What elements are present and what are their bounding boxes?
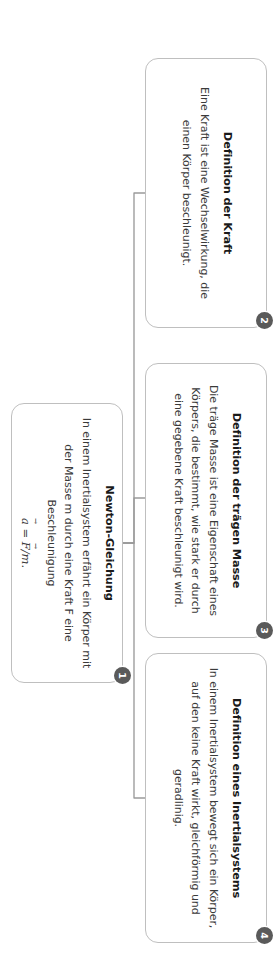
formula-operator: =: [19, 528, 33, 538]
formula-terminator: .: [19, 564, 33, 568]
formula-acceleration: a: [18, 518, 34, 525]
node-body: In einem Inertialsystem erfährt ein Körp…: [42, 417, 95, 669]
node-title: Definition der trägen Masse: [229, 413, 243, 589]
formula-force: F: [18, 542, 34, 550]
badge-2: 2: [256, 312, 273, 329]
node-definition-inertialsystem[interactable]: Definition eines InertialsystemsIn einem…: [145, 653, 267, 943]
badge-4: 4: [256, 927, 273, 944]
node-title: Newton-Gleichung: [102, 485, 116, 600]
node-body: In einem Inertialsystem bewegt sich ein …: [169, 667, 222, 929]
node-definition-traege-masse[interactable]: Definition der trägen MasseDie träge Mas…: [145, 363, 267, 638]
diagram-canvas: Definition der KraftEine Kraft ist eine …: [0, 0, 275, 973]
node-title: Definition der Kraft: [220, 132, 234, 254]
connector-to-node-2: [123, 193, 145, 543]
node-formula: a = F/m.: [18, 518, 34, 568]
formula-mass: m: [19, 554, 33, 565]
node-newton-gleichung[interactable]: Newton-GleichungIn einem Inertialsystem …: [11, 403, 123, 683]
badge-3: 3: [256, 622, 273, 639]
node-title: Definition eines Inertialsystems: [229, 698, 243, 898]
badge-1: 1: [114, 667, 131, 684]
node-body: Die träge Masse ist eine Eigenschaft ein…: [169, 377, 222, 624]
node-definition-kraft[interactable]: Definition der KraftEine Kraft ist eine …: [145, 58, 267, 328]
node-body: Eine Kraft ist eine Wechselwirkung, die …: [178, 72, 214, 314]
